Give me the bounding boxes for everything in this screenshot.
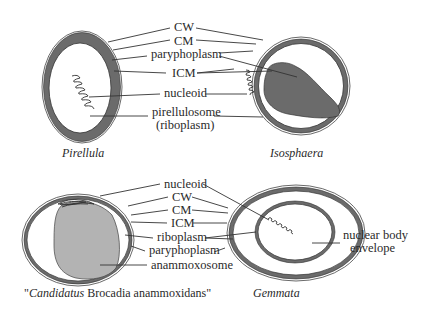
label-pirellulosome-top: pirellulosome (152, 105, 221, 119)
brocadia-cell (22, 194, 134, 286)
gemmata-caption-text: Gemmata (253, 286, 300, 300)
label-icm-top: ICM (172, 66, 196, 80)
pirellula-cell (42, 31, 122, 143)
isosphaera-caption: Isosphaera (269, 146, 323, 160)
label-riboplasm-bottom: riboplasm (157, 230, 207, 244)
bottom-labels: nucleoid CW CM ICM riboplasm paryphoplas… (149, 177, 233, 272)
planctomycetes-cell-diagram: Pirellula Isosphaera CW CM paryphoplasm … (0, 0, 421, 312)
label-cw-bottom: CW (172, 190, 192, 204)
label-nucleoid-bottom: nucleoid (164, 177, 208, 191)
brocadia-caption: "Candidatus Brocadia anammoxidans" (24, 286, 211, 300)
label-cm-bottom: CM (172, 203, 191, 217)
label-icm-bottom: ICM (171, 216, 195, 230)
label-riboplasm-top: (riboplasm) (156, 118, 214, 132)
brocadia-anammoxosome (54, 202, 119, 280)
isosphaera-cell (246, 37, 350, 135)
isosphaera-caption-text: Isosphaera (269, 146, 323, 160)
pirellula-caption-text: Pirellula (61, 146, 104, 160)
label-cm-top: CM (174, 34, 193, 48)
label-nuclear-body: nuclear body (343, 228, 409, 242)
brocadia-caption-text: "Candidatus Brocadia anammoxidans" (24, 286, 211, 300)
label-envelope: envelope (350, 241, 396, 255)
label-nucleoid-top: nucleoid (164, 86, 208, 100)
gemmata-nuclear-body (258, 204, 332, 260)
label-cw-top: CW (174, 20, 194, 34)
gemmata-caption: Gemmata (253, 286, 300, 300)
label-anammoxosome-bottom: anammoxosome (151, 258, 233, 272)
pirellula-caption: Pirellula (61, 146, 104, 160)
top-labels: CW CM paryphoplasm ICM nucleoid pirellul… (151, 20, 222, 132)
label-paryphoplasm-top: paryphoplasm (151, 47, 222, 61)
label-paryphoplasm-bottom: paryphoplasm (149, 243, 220, 257)
